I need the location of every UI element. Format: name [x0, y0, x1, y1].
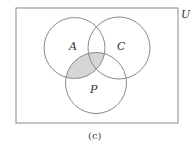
set-a-label: A: [68, 40, 77, 53]
universe-label: U: [181, 8, 191, 21]
caption: (c): [88, 130, 102, 141]
venn-diagram: A C P U (c): [0, 0, 194, 150]
set-c-label: C: [117, 40, 126, 53]
set-p-label: P: [89, 83, 98, 96]
